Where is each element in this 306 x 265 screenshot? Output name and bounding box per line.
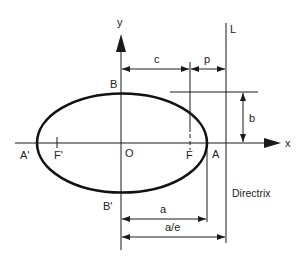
covertex-b-prime-label: B'	[103, 200, 112, 212]
y-axis: y	[116, 16, 126, 250]
a-over-e-dimension-label: a/e	[165, 221, 180, 233]
x-axis: x	[15, 137, 291, 149]
y-axis-arrow-icon	[116, 34, 126, 52]
b-dimension-label: b	[249, 112, 255, 124]
vertex-a-prime-label: A'	[20, 149, 29, 161]
ellipse-diagram: x y L Directrix c p b a a/e O A A' F F' …	[0, 0, 306, 265]
c-dimension-label: c	[154, 53, 160, 65]
focus-f-prime-label: F'	[54, 149, 63, 161]
vertex-a-label: A	[212, 148, 220, 160]
origin-label: O	[125, 147, 134, 159]
x-axis-arrow-icon	[264, 138, 281, 148]
a-dimension-label: a	[160, 203, 167, 215]
covertex-b-label: B	[110, 78, 117, 90]
focus-f-label: F	[186, 149, 193, 161]
y-axis-label: y	[117, 16, 123, 28]
x-axis-label: x	[285, 137, 291, 149]
directrix-line-label: L	[230, 23, 236, 35]
p-dimension-label: p	[204, 53, 210, 65]
directrix-caption: Directrix	[232, 187, 271, 199]
